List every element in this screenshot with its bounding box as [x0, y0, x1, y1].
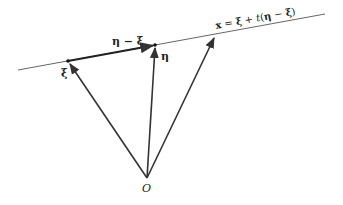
point-xi-label: ξ — [61, 67, 68, 80]
line-equation-label: x = ξ + t(η − ξ) — [214, 6, 296, 31]
svg-text:x = ξ + t(η − ξ): x = ξ + t(η − ξ) — [214, 6, 296, 31]
point-eta — [153, 43, 157, 47]
eq-close: ) — [290, 6, 296, 18]
vector-xi — [70, 64, 147, 178]
vector-eta — [147, 48, 155, 178]
origin-label: O — [142, 182, 151, 195]
difference-label: η − ξ — [112, 35, 144, 48]
parametric-line — [18, 14, 325, 70]
point-eta-label: η — [161, 50, 169, 63]
diagram-canvas: η − ξ ξ η O x = ξ + t(η − ξ) — [0, 0, 343, 205]
vector-x — [147, 38, 214, 178]
point-xi — [66, 59, 70, 63]
